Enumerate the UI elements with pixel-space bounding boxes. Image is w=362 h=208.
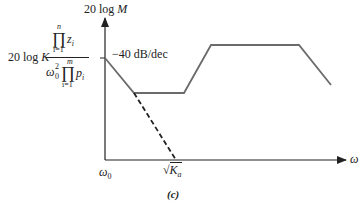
denominator-omega: ω	[46, 66, 54, 78]
denominator-omega-sub: 0	[55, 73, 59, 81]
y-axis-label: 20 log M	[84, 3, 127, 15]
denominator-variable: pi	[76, 67, 84, 82]
numerator-variable: zi	[67, 33, 74, 48]
denominator-omega-sup: 2	[55, 63, 59, 71]
denominator-product-symbol: ∏	[61, 64, 75, 81]
x-axis-label: ω	[350, 153, 358, 165]
x-tick-sqrt-ka: √Ka	[163, 164, 182, 179]
denominator-lower-limit: i=1	[62, 81, 73, 89]
dashed-extension	[134, 93, 176, 160]
x-tick-omega0: ω0	[99, 166, 111, 181]
slope-annotation: −40 dB/dec	[112, 48, 168, 60]
figure-caption: (c)	[167, 189, 179, 200]
intercept-prefix: 20 log K	[8, 51, 49, 63]
numerator-lower-limit: i=1	[53, 46, 64, 54]
